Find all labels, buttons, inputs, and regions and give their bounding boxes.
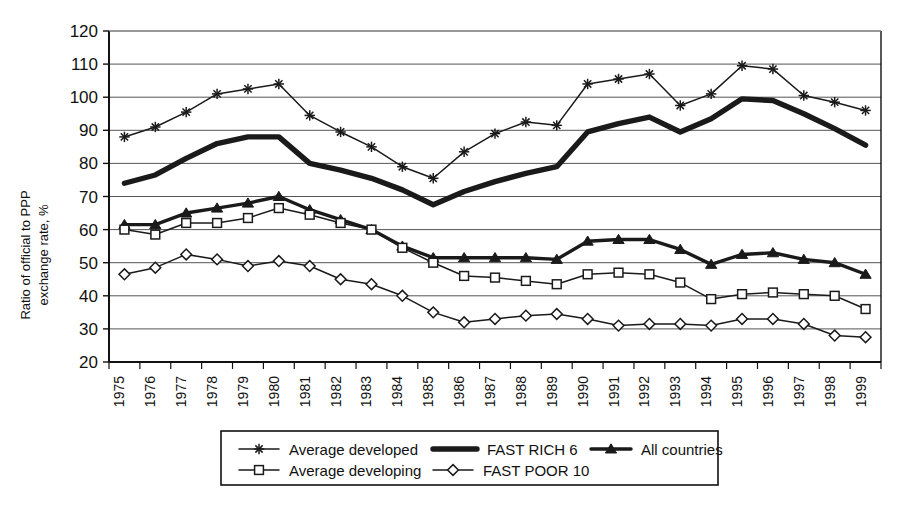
data-point-square (255, 466, 264, 475)
data-point-square (367, 225, 376, 234)
data-point-square (120, 225, 129, 234)
data-point-square (491, 273, 500, 282)
y-tick-label: 100 (70, 88, 98, 107)
y-tick-label: 70 (79, 188, 98, 207)
x-tick-label: 1987 (482, 376, 498, 407)
x-tick-label: 1979 (235, 376, 251, 407)
data-point-square (676, 278, 685, 287)
x-tick-label: 1975 (111, 376, 127, 407)
legend-label: Average developed (289, 441, 418, 458)
y-tick-label: 40 (79, 287, 98, 306)
y-tick-label: 30 (79, 320, 98, 339)
x-tick-label: 1990 (575, 376, 591, 407)
data-point-square (769, 288, 778, 297)
data-point-square (213, 219, 222, 228)
x-tick-label: 1976 (142, 376, 158, 407)
y-tick-label: 50 (79, 254, 98, 273)
x-tick-label: 1989 (544, 376, 560, 407)
x-tick-label: 1982 (328, 376, 344, 407)
data-point-square (552, 280, 561, 289)
data-point-square (336, 219, 345, 228)
x-tick-label: 1996 (760, 376, 776, 407)
data-point-square (151, 230, 160, 239)
data-point-square (861, 305, 870, 314)
data-point-square (645, 270, 654, 279)
legend-label: FAST POOR 10 (483, 462, 589, 479)
y-tick-label: 110 (71, 55, 98, 74)
y-tick-label: 60 (79, 221, 98, 240)
legend-box: Average developedFAST RICH 6All countrie… (221, 431, 723, 485)
x-tick-label: 1984 (389, 376, 405, 407)
data-point-square (521, 277, 530, 286)
x-tick-label: 1981 (297, 376, 313, 407)
x-tick-label: 1993 (667, 376, 683, 407)
x-tick-label: 1998 (822, 376, 838, 407)
data-point-square (738, 290, 747, 299)
data-point-square (614, 268, 623, 277)
data-point-square (182, 219, 191, 228)
data-point-square (244, 214, 253, 223)
data-point-square (274, 204, 283, 213)
y-axis-title-line2: exchange rate, % (36, 204, 51, 306)
x-tick-label: 1977 (173, 376, 189, 407)
y-tick-label: 20 (79, 353, 98, 372)
y-axis-title-line1: Ratio of official to PPP (18, 190, 33, 319)
chart-figure: Ratio of official to PPP exchange rate, … (0, 0, 898, 513)
y-tick-label: 90 (79, 121, 98, 140)
data-point-square (305, 210, 314, 219)
x-tick-label: 1988 (513, 376, 529, 407)
line-chart: Ratio of official to PPP exchange rate, … (0, 0, 898, 513)
legend-label: FAST RICH 6 (487, 441, 578, 458)
x-tick-label: 1992 (636, 376, 652, 407)
x-tick-label: 1997 (791, 376, 807, 407)
legend-label: All countries (641, 441, 723, 458)
data-point-square (398, 243, 407, 252)
x-tick-label: 1994 (698, 376, 714, 407)
x-tick-label: 1991 (606, 376, 622, 407)
data-point-square (583, 270, 592, 279)
x-tick-label: 1983 (358, 376, 374, 407)
x-tick-label: 1986 (451, 376, 467, 407)
data-point-square (460, 272, 469, 281)
x-tick-label: 1999 (853, 376, 869, 407)
x-tick-label: 1985 (420, 376, 436, 407)
data-point-square (830, 291, 839, 300)
x-tick-label: 1995 (729, 376, 745, 407)
data-point-square (429, 258, 438, 267)
data-point-square (707, 295, 716, 304)
legend-label: Average developing (289, 462, 421, 479)
y-tick-label: 120 (70, 22, 98, 41)
x-tick-label: 1980 (266, 376, 282, 407)
y-tick-label: 80 (79, 154, 98, 173)
data-point-square (799, 290, 808, 299)
x-tick-label: 1978 (204, 376, 220, 407)
